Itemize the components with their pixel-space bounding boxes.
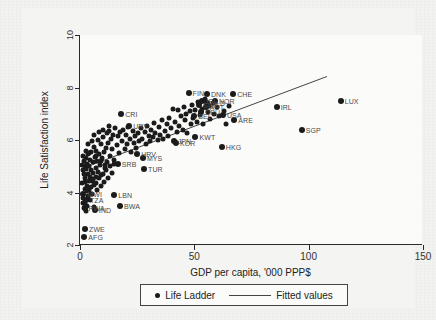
y-tick-label: 8 — [65, 80, 75, 96]
legend-label-fitted-values: Fitted values — [276, 290, 333, 301]
scatter-point-label: ARE — [238, 117, 253, 124]
scatter-point — [103, 145, 108, 150]
x-tick-label: 50 — [189, 251, 200, 262]
scatter-point-label: HKG — [226, 144, 241, 151]
x-tick-mark — [423, 245, 424, 250]
y-tick-mark — [75, 193, 80, 194]
scatter-point-label: FIN — [193, 89, 205, 96]
scatter-point — [82, 226, 88, 232]
scatter-point — [110, 147, 115, 152]
chart-canvas: CRIURYFINDNKCHENORISLNLDSWEAUTUSAAREDEUB… — [22, 8, 414, 308]
scatter-point — [87, 151, 92, 156]
scatter-point — [83, 197, 89, 203]
scatter-point — [169, 126, 174, 131]
scatter-point — [105, 176, 110, 181]
scatter-point — [162, 128, 167, 133]
scatter-point — [220, 112, 226, 118]
scatter-point — [130, 128, 135, 133]
y-axis-title: Life Satisfaction index — [39, 91, 50, 188]
y-tick-label: 4 — [65, 185, 75, 201]
scatter-point — [175, 130, 180, 135]
scatter-point-label: KWT — [199, 134, 215, 141]
x-tick-mark — [80, 245, 81, 250]
scatter-point-label: CRI — [125, 110, 137, 117]
scatter-point — [299, 127, 305, 133]
scatter-point-label: AFG — [88, 234, 103, 241]
scatter-point — [101, 127, 106, 132]
scatter-point — [98, 141, 103, 146]
scatter-point — [117, 203, 123, 209]
legend-item-fitted-values: Fitted values — [229, 290, 333, 301]
scatter-point — [166, 134, 171, 139]
scatter-point — [226, 103, 231, 108]
scatter-point — [111, 192, 117, 198]
scatter-point — [196, 102, 202, 108]
scatter-point — [136, 131, 141, 136]
scatter-point — [88, 185, 93, 190]
scatter-point — [103, 162, 108, 167]
scatter-point — [114, 143, 119, 148]
scatter-point — [186, 90, 192, 96]
scatter-point — [106, 123, 111, 128]
scatter-point — [194, 119, 199, 124]
scatter-point — [170, 106, 175, 111]
chart-legend: Life Ladder Fitted values — [140, 284, 348, 306]
scatter-point — [122, 147, 127, 152]
figure-container: CRIURYFINDNKCHENORISLNLDSWEAUTUSAAREDEUB… — [0, 0, 436, 320]
y-tick-mark — [75, 140, 80, 141]
x-tick-mark — [194, 245, 195, 250]
scatter-point-label: TUR — [148, 166, 163, 173]
legend-marker-dot — [155, 293, 160, 298]
scatter-point — [274, 104, 280, 110]
scatter-point — [82, 205, 88, 211]
x-tick-label: 150 — [415, 251, 432, 262]
scatter-point — [89, 139, 94, 144]
scatter-point — [190, 102, 195, 107]
scatter-point-label: LBN — [118, 192, 132, 199]
scatter-point — [118, 111, 124, 117]
scatter-point — [94, 153, 99, 158]
scatter-point — [80, 153, 85, 158]
scatter-point — [182, 105, 187, 110]
scatter-point — [134, 145, 139, 150]
scatter-point — [167, 115, 172, 120]
x-tick-mark — [309, 245, 310, 250]
scatter-point — [219, 144, 225, 150]
scatter-point — [109, 170, 114, 175]
scatter-point — [191, 113, 197, 119]
legend-label-life-ladder: Life Ladder — [165, 290, 215, 301]
x-axis-title: GDP per capita, '000 PPP$ — [79, 267, 422, 278]
scatter-point — [156, 124, 161, 129]
scatter-point — [185, 131, 190, 136]
scatter-point — [139, 136, 144, 141]
scatter-point — [126, 123, 132, 129]
y-tick-label: 6 — [65, 132, 75, 148]
scatter-point — [124, 141, 129, 146]
scatter-point-label: ZWE — [89, 225, 105, 232]
scatter-point — [116, 151, 121, 156]
y-tick-label: 10 — [65, 27, 75, 43]
scatter-point-label: BEL — [198, 113, 212, 120]
scatter-point — [115, 161, 121, 167]
legend-marker-line — [229, 295, 271, 296]
scatter-point-label: IRL — [281, 104, 292, 111]
scatter-point-label: URY — [133, 122, 148, 129]
scatter-point-label: SRB — [122, 160, 137, 167]
scatter-point — [80, 181, 85, 186]
x-tick-label: 100 — [300, 251, 317, 262]
scatter-point-label: BWA — [124, 203, 140, 210]
scatter-point-label: MYS — [147, 155, 162, 162]
scatter-point — [187, 109, 192, 114]
x-tick-label: 0 — [77, 251, 83, 262]
scatter-point — [131, 140, 136, 145]
scatter-point-label: TZA — [90, 196, 104, 203]
scatter-point — [81, 234, 87, 240]
legend-item-life-ladder: Life Ladder — [155, 290, 215, 301]
scatter-point-label: KOR — [180, 139, 195, 146]
scatter-point — [176, 107, 181, 112]
y-tick-mark — [75, 88, 80, 89]
plot-area: CRIURYFINDNKCHENORISLNLDSWEAUTUSAAREDEUB… — [79, 35, 422, 245]
scatter-point — [188, 122, 193, 127]
scatter-point-label: LUX — [345, 98, 359, 105]
scatter-point — [338, 98, 344, 104]
